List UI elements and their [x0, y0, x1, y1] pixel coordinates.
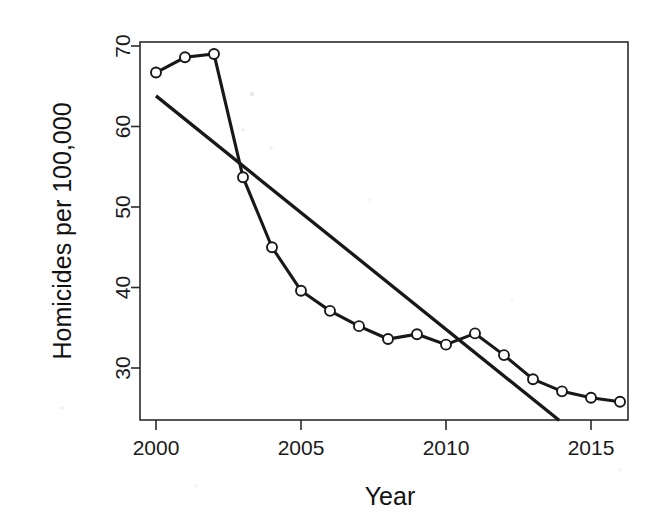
- scan-artifacts: [60, 92, 622, 488]
- y-tick-label-50: 50: [111, 195, 134, 218]
- x-tick-label-2000: 2000: [133, 436, 180, 459]
- data-point-marker: [441, 340, 451, 350]
- plot-box: [140, 42, 628, 420]
- data-point-marker: [325, 306, 335, 316]
- x-tick-label-2010: 2010: [423, 436, 470, 459]
- x-axis-ticks: [156, 420, 591, 430]
- y-axis-tick-labels: 70 60 50 40 30: [111, 34, 134, 379]
- y-tick-label-30: 30: [111, 356, 134, 379]
- data-point-marker: [267, 242, 277, 252]
- data-point-marker: [296, 286, 306, 296]
- chart-canvas: 70 60 50 40 30 2000 2005 2010 2015 Homic…: [0, 0, 666, 530]
- data-point-marker: [528, 374, 538, 384]
- data-point-marker: [615, 397, 625, 407]
- data-point-marker: [151, 68, 161, 78]
- x-tick-label-2015: 2015: [568, 436, 615, 459]
- y-tick-label-60: 60: [111, 115, 134, 138]
- x-axis-title: Year: [365, 482, 416, 510]
- y-tick-label-40: 40: [111, 276, 134, 299]
- data-series-layer: [151, 49, 625, 420]
- data-point-marker: [180, 52, 190, 62]
- homicide-rate-line: [156, 54, 620, 402]
- data-point-markers: [151, 49, 625, 407]
- data-point-marker: [470, 328, 480, 338]
- data-point-marker: [586, 393, 596, 403]
- data-point-marker: [499, 350, 509, 360]
- x-tick-label-2005: 2005: [278, 436, 325, 459]
- y-tick-label-70: 70: [111, 34, 134, 57]
- data-point-marker: [412, 329, 422, 339]
- x-axis-tick-labels: 2000 2005 2010 2015: [133, 436, 615, 459]
- data-point-marker: [238, 172, 248, 182]
- linear-trend-line: [156, 96, 559, 420]
- y-axis-title: Homicides per 100,000: [48, 102, 76, 359]
- data-point-marker: [557, 386, 567, 396]
- data-point-marker: [209, 49, 219, 59]
- chart-figure: 70 60 50 40 30 2000 2005 2010 2015 Homic…: [0, 0, 666, 530]
- data-point-marker: [354, 321, 364, 331]
- data-point-marker: [383, 334, 393, 344]
